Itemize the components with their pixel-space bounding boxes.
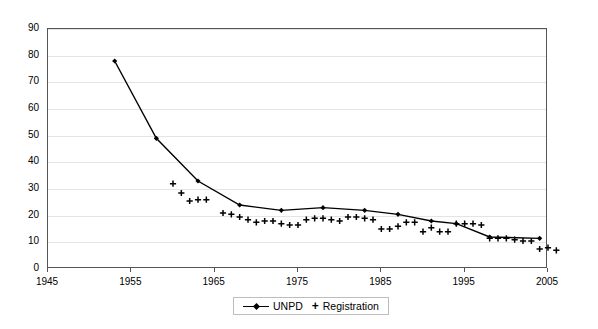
y-tick-label: 90 [5, 23, 39, 33]
data-point-marker [353, 214, 359, 220]
data-point-marker [537, 246, 543, 252]
legend-item-registration: + Registration [312, 301, 379, 312]
data-point-marker [428, 225, 434, 231]
data-point-marker [470, 221, 476, 227]
data-point-marker [262, 218, 268, 224]
data-point-marker [362, 208, 367, 213]
data-point-marker [370, 217, 376, 223]
y-tick-label: 70 [5, 76, 39, 86]
x-tick-mark [130, 268, 131, 272]
data-point-marker [395, 223, 401, 229]
data-point-marker [429, 218, 434, 223]
y-tick-label: 50 [5, 130, 39, 140]
legend-label-registration: Registration [323, 301, 379, 312]
series-registration [170, 181, 560, 254]
data-point-marker [220, 210, 226, 216]
x-tick-label: 2005 [517, 277, 577, 287]
x-tick-mark [380, 268, 381, 272]
data-point-marker [478, 222, 484, 228]
data-point-marker [395, 212, 400, 217]
x-tick-mark [297, 268, 298, 272]
data-point-marker [337, 218, 343, 224]
x-tick-label: 1955 [100, 277, 160, 287]
y-tick-label: 80 [5, 50, 39, 60]
data-point-marker [170, 181, 176, 187]
data-point-marker [237, 214, 243, 220]
data-point-marker [362, 215, 368, 221]
data-point-marker [278, 221, 284, 227]
data-point-marker [270, 218, 276, 224]
data-point-marker [195, 197, 201, 203]
x-tick-mark [547, 268, 548, 272]
line-diamond-icon [243, 302, 269, 310]
data-point-marker [203, 197, 209, 203]
data-point-marker [245, 217, 251, 223]
data-point-marker [228, 211, 234, 217]
data-point-marker [437, 229, 443, 235]
data-point-marker [295, 222, 301, 228]
plus-icon: + [312, 301, 319, 311]
x-tick-mark [47, 268, 48, 272]
y-tick-label: 40 [5, 156, 39, 166]
data-point-marker [328, 217, 334, 223]
x-tick-label: 1985 [350, 277, 410, 287]
data-point-marker [312, 215, 318, 221]
data-point-marker [112, 58, 117, 63]
data-point-marker [303, 217, 309, 223]
y-tick-label: 0 [5, 263, 39, 273]
data-point-marker [287, 222, 293, 228]
data-point-marker [187, 198, 193, 204]
series-line [115, 61, 540, 238]
series-unpd [112, 58, 542, 241]
x-tick-label: 1995 [434, 277, 494, 287]
data-point-marker [345, 214, 351, 220]
x-tick-mark [464, 268, 465, 272]
x-tick-label: 1975 [267, 277, 327, 287]
y-tick-label: 30 [5, 183, 39, 193]
data-point-marker [537, 236, 542, 241]
data-point-marker [412, 219, 418, 225]
data-point-marker [420, 229, 426, 235]
data-point-marker [503, 235, 509, 241]
data-point-marker [178, 190, 184, 196]
y-tick-label: 60 [5, 103, 39, 113]
legend-label-unpd: UNPD [273, 301, 303, 312]
plot-area [47, 28, 547, 268]
data-point-marker [553, 247, 559, 253]
x-tick-label: 1965 [184, 277, 244, 287]
legend-item-unpd: UNPD [243, 301, 303, 312]
data-point-marker [520, 238, 526, 244]
data-point-marker [320, 215, 326, 221]
y-tick-label: 20 [5, 210, 39, 220]
data-point-marker [403, 219, 409, 225]
data-point-marker [453, 221, 459, 227]
data-point-marker [445, 229, 451, 235]
data-point-marker [279, 208, 284, 213]
x-tick-mark [214, 268, 215, 272]
data-point-marker [387, 226, 393, 232]
data-point-marker [320, 205, 325, 210]
data-point-marker [253, 219, 259, 225]
chart-legend: UNPD + Registration [233, 297, 389, 315]
x-tick-label: 1945 [17, 277, 77, 287]
data-series-layer [48, 29, 548, 269]
data-point-marker [378, 226, 384, 232]
data-point-marker [545, 245, 551, 251]
y-tick-label: 10 [5, 236, 39, 246]
data-point-marker [495, 235, 501, 241]
chart-container: 0102030405060708090 19451955196519751985… [0, 0, 598, 329]
